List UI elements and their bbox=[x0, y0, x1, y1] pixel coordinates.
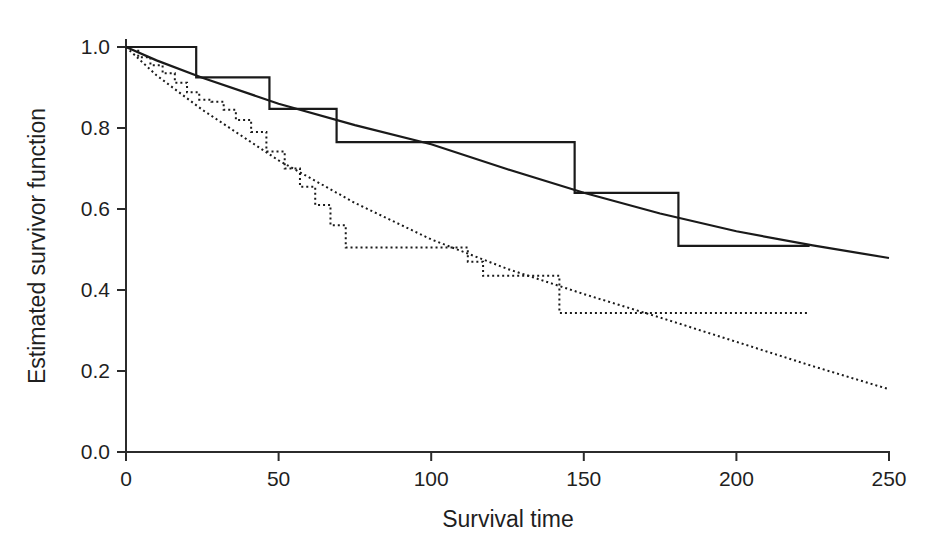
y-ticklabel-0.8: 0.8 bbox=[81, 116, 110, 139]
x-ticklabel-150: 150 bbox=[566, 467, 601, 490]
x-ticklabel-0: 0 bbox=[120, 467, 132, 490]
x-ticklabel-200: 200 bbox=[719, 467, 754, 490]
x-ticklabel-100: 100 bbox=[414, 467, 449, 490]
y-ticklabel-0.0: 0.0 bbox=[81, 440, 110, 463]
x-axis-label: Survival time bbox=[442, 506, 574, 532]
y-ticklabel-0.6: 0.6 bbox=[81, 197, 110, 220]
y-axis-label: Estimated survivor function bbox=[24, 108, 50, 384]
y-ticklabel-0.4: 0.4 bbox=[81, 278, 111, 301]
y-ticklabel-1.0: 1.0 bbox=[81, 35, 110, 58]
survivor-function-chart: 0.00.20.40.60.81.0 050100150200250 Survi… bbox=[0, 0, 945, 554]
x-ticklabel-50: 50 bbox=[267, 467, 290, 490]
y-ticklabel-0.2: 0.2 bbox=[81, 359, 110, 382]
chart-background bbox=[0, 0, 945, 554]
x-ticklabel-250: 250 bbox=[871, 467, 906, 490]
survivor-function-figure: 0.00.20.40.60.81.0 050100150200250 Survi… bbox=[0, 0, 945, 554]
